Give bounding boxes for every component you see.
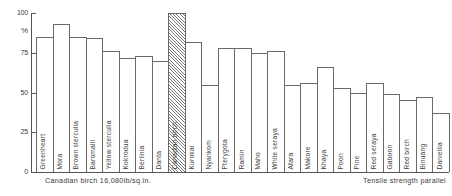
- bar-category-label: White seraya: [272, 129, 279, 170]
- bar: Binuang: [416, 97, 434, 172]
- bar: Kurokai: [185, 42, 203, 172]
- y-axis-unit-label: %: [8, 27, 28, 35]
- bar: Maho: [251, 53, 269, 172]
- y-axis-tick-label: 25: [2, 128, 28, 135]
- bar-category-label: Afara: [288, 153, 295, 170]
- bar-series: GreenheartMoraBrown sterculiaBaromalliYe…: [36, 13, 449, 172]
- reference-caption: Canadian birch 16,080lb/sq.in.: [45, 177, 151, 185]
- bar: Ramin: [234, 48, 252, 172]
- bar: Nyankom: [201, 85, 219, 172]
- bar-chart: % 0255075100 GreenheartMoraBrown stercul…: [0, 0, 452, 196]
- bar-category-label: Greenheart: [41, 134, 48, 170]
- bar: Khaya: [317, 67, 335, 172]
- bar-category-label: Danta: [156, 151, 163, 170]
- bar-category-label: Canadian birch: [173, 122, 180, 170]
- bar: Danta: [152, 61, 170, 172]
- bar-category-label: Red birch: [404, 140, 411, 170]
- bar-category-label: Nyankom: [206, 140, 213, 170]
- bar-category-label: Khaya: [322, 150, 329, 170]
- bar-category-label: Red seraya: [371, 134, 378, 170]
- bar: Yellow sterculia: [102, 51, 120, 172]
- bar-category-label: Baromalli: [90, 140, 97, 170]
- bar: Poon: [333, 88, 351, 172]
- bar-category-label: Yellow sterculia: [107, 121, 114, 170]
- bar: Berlinia: [135, 56, 153, 172]
- bar: Red birch: [399, 100, 417, 172]
- bar-category-label: Berlinia: [140, 146, 147, 170]
- plot-area: GreenheartMoraBrown sterculiaBaromalliYe…: [36, 13, 449, 172]
- bar: Greenheart: [36, 37, 54, 172]
- bar-category-label: Pterygota: [222, 140, 229, 170]
- y-axis-tick-mark: [31, 172, 36, 173]
- y-axis-tick-label: 75: [2, 49, 28, 56]
- y-axis-tick-label: 0: [2, 168, 28, 175]
- bar-category-label: Poon: [338, 154, 345, 170]
- bar: Canadian birch: [168, 13, 186, 172]
- bar-category-label: Daniellia: [437, 142, 444, 170]
- bar: Kokrodua: [119, 58, 137, 172]
- bar: Daniellia: [432, 113, 450, 172]
- bar-category-label: Kokrodua: [123, 140, 130, 170]
- measure-caption: Tensile strength parallel: [363, 177, 446, 185]
- bar-category-label: Kurokai: [189, 146, 196, 170]
- bar: Mora: [53, 24, 71, 172]
- bar-category-label: Ramin: [239, 150, 246, 170]
- bar-category-label: Makore: [305, 147, 312, 171]
- bar-category-label: Maho: [255, 153, 262, 171]
- bar-category-label: Gaboon: [388, 145, 395, 170]
- bar-category-label: Pine: [355, 156, 362, 170]
- bar-category-label: Brown sterculia: [74, 121, 81, 170]
- bar: Pine: [350, 93, 368, 173]
- bar: White seraya: [267, 51, 285, 172]
- bar: Gaboon: [383, 94, 401, 172]
- y-axis-tick-label: 100: [2, 9, 28, 16]
- bar: Pterygota: [218, 48, 236, 172]
- x-axis-baseline: [31, 172, 449, 173]
- bar: Red seraya: [366, 83, 384, 172]
- bar-category-label: Mora: [57, 154, 64, 170]
- bar: Brown sterculia: [69, 37, 87, 172]
- bar: Afara: [284, 85, 302, 172]
- y-axis-tick-label: 50: [2, 89, 28, 96]
- bar: Makore: [300, 83, 318, 172]
- bar-category-label: Binuang: [421, 144, 428, 170]
- bar: Baromalli: [86, 38, 104, 172]
